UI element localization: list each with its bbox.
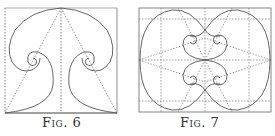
- fig6-left-volute: [5, 8, 61, 113]
- fig6-right-volute: [61, 8, 117, 113]
- fig6-left-diagonal: [5, 8, 61, 113]
- fig6-diagram: [5, 8, 117, 113]
- fig7-diagram: [139, 8, 271, 112]
- fig7-caption: Fig. 7: [180, 115, 219, 130]
- fig6-caption: Fig. 6: [42, 115, 81, 130]
- fig6-right-diagonal: [61, 8, 117, 113]
